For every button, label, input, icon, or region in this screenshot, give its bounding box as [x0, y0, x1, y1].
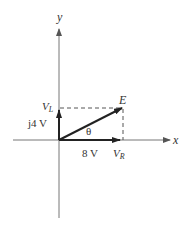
e-label: E: [118, 93, 127, 107]
vl-value-label: j4 V: [27, 117, 47, 129]
phasor-diagram: y x E θ 8 V VR VL j4 V: [0, 0, 188, 229]
vr-name-label: VR: [113, 147, 125, 161]
y-axis-label: y: [56, 10, 63, 24]
vr-value-label: 8 V: [82, 147, 98, 159]
x-axis-label: x: [172, 133, 179, 147]
vl-name-label: VL: [42, 100, 54, 114]
theta-label: θ: [86, 125, 91, 137]
